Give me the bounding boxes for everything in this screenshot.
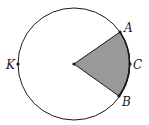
label-k: K <box>5 58 16 72</box>
point-b <box>117 94 120 97</box>
circle-sector-diagram: A C B K <box>0 0 149 125</box>
point-c <box>128 62 131 65</box>
label-b: B <box>121 95 131 109</box>
point-a <box>118 30 121 33</box>
center-point <box>72 62 75 65</box>
point-k <box>16 62 19 65</box>
label-c: C <box>133 58 142 72</box>
label-a: A <box>123 21 133 35</box>
